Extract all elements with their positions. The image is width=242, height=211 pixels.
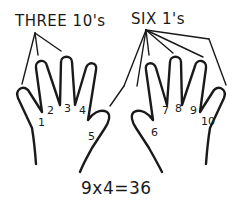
finger-label-2: 2 bbox=[47, 105, 54, 116]
finger-label-3: 3 bbox=[64, 103, 71, 114]
equation: 9x4=36 bbox=[81, 180, 152, 197]
finger-label-7: 7 bbox=[162, 105, 169, 116]
finger-label-9: 9 bbox=[190, 105, 197, 116]
finger-label-8: 8 bbox=[175, 103, 182, 114]
finger-label-5: 5 bbox=[88, 131, 95, 142]
left-title: THREE 10's bbox=[15, 14, 106, 29]
right-title: SIX 1's bbox=[131, 12, 185, 27]
finger-label-6: 6 bbox=[151, 127, 158, 138]
left-pointer-lines bbox=[22, 33, 61, 84]
finger-label-4: 4 bbox=[79, 105, 86, 116]
finger-label-10: 10 bbox=[201, 116, 215, 127]
finger-label-1: 1 bbox=[38, 117, 45, 128]
